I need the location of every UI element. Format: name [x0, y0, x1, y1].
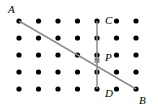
point-label-c: C — [105, 15, 112, 26]
figure-canvas — [0, 0, 158, 110]
grid-dot — [36, 69, 41, 74]
point-label-b: B — [139, 95, 146, 106]
grid-dot — [36, 86, 41, 91]
grid-dot — [133, 69, 138, 74]
intersection-marker-layer — [95, 58, 100, 63]
geometry-figure: ACPDB — [0, 0, 158, 110]
point-label-d: D — [105, 88, 113, 99]
grid-dot — [16, 35, 21, 40]
grid-dot — [114, 86, 119, 91]
grid-dot — [75, 35, 80, 40]
grid-dot — [133, 52, 138, 57]
grid-dot — [36, 35, 41, 40]
grid-dot — [75, 69, 80, 74]
grid-dot — [114, 35, 119, 40]
grid-dot — [16, 52, 21, 57]
grid-dot — [36, 52, 41, 57]
grid-dot — [55, 52, 60, 57]
grid-dot — [75, 86, 80, 91]
grid-dot — [36, 18, 41, 23]
point-label-a: A — [8, 4, 15, 15]
grid-dot — [75, 18, 80, 23]
grid-dot — [114, 52, 119, 57]
grid-dot — [55, 69, 60, 74]
grid-dot — [55, 35, 60, 40]
grid-dot — [55, 18, 60, 23]
intersection-point-marker — [95, 58, 100, 63]
grid-dot — [133, 18, 138, 23]
grid-dot — [16, 86, 21, 91]
point-label-p: P — [105, 52, 112, 63]
grid-dot — [133, 35, 138, 40]
grid-dot — [114, 18, 119, 23]
grid-dot — [55, 86, 60, 91]
grid-dot — [16, 69, 21, 74]
grid-dot — [114, 69, 119, 74]
